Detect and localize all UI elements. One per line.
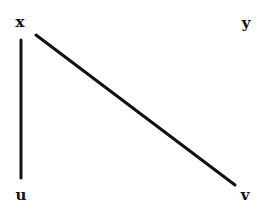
- node-x-label: x: [16, 15, 25, 30]
- node-v-label: v: [241, 188, 250, 203]
- edges-layer: [0, 0, 272, 218]
- node-u-label: u: [16, 188, 27, 203]
- edge-x-v: [36, 35, 235, 185]
- node-y-label: y: [242, 16, 251, 31]
